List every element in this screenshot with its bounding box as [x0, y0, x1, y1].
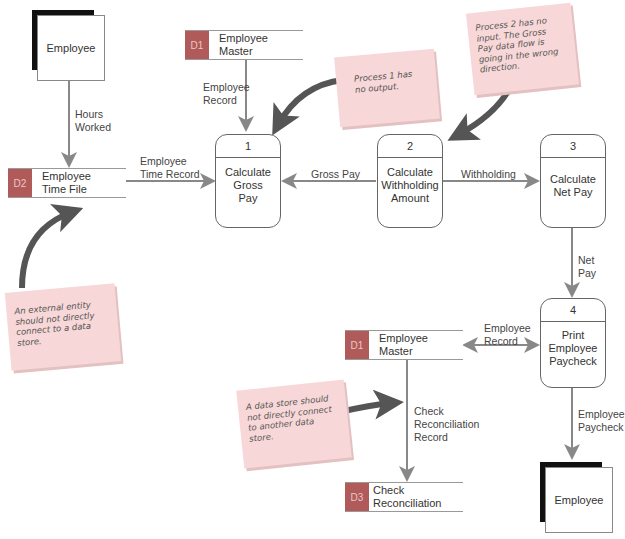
process-number: 2: [378, 135, 442, 158]
flow-label-employee-record-top: Employee Record: [203, 81, 250, 107]
flow-label-check-reconciliation-record: Check Reconciliation Record: [414, 405, 479, 444]
process-label: Print Employee Paycheck: [541, 322, 605, 368]
flow-label-net-pay: Net Pay: [578, 254, 596, 280]
store-name: Check Reconciliation: [373, 484, 441, 510]
data-store-d1-bottom: D1 Employee Master: [345, 330, 463, 360]
note-store-to-store: A data store should not directly connect…: [236, 380, 352, 469]
note-entity-to-store: An external entity should not directly c…: [5, 283, 121, 370]
flow-label-employee-record-bottom: Employee Record: [484, 322, 531, 348]
process-number: 3: [541, 135, 605, 158]
flow-label-hours-worked: Hours Worked: [75, 108, 111, 134]
store-id: D3: [345, 483, 369, 511]
flow-label-withholding: Withholding: [461, 168, 516, 181]
process-3: 3 Calculate Net Pay: [540, 134, 606, 228]
store-id: D1: [345, 331, 369, 359]
entity-label: Employee: [47, 42, 96, 54]
note-process2-no-input: Process 2 has no input. The Gross Pay da…: [466, 3, 579, 96]
store-name: Employee Master: [379, 332, 428, 358]
flow-label-employee-time-record: Employee Time Record: [140, 155, 200, 181]
store-id: D2: [8, 169, 32, 197]
external-entity-employee-top: Employee: [32, 10, 104, 80]
external-entity-employee-bottom: Employee: [540, 462, 612, 532]
data-store-d1-top: D1 Employee Master: [185, 30, 303, 60]
process-label: Calculate Withholding Amount: [378, 158, 442, 205]
flow-label-employee-paycheck: Employee Paycheck: [578, 408, 625, 434]
store-name: Employee Time File: [42, 170, 91, 196]
process-label: Calculate Net Pay: [541, 158, 605, 199]
process-2: 2 Calculate Withholding Amount: [377, 134, 443, 228]
flow-label-gross-pay: Gross Pay: [311, 168, 360, 181]
store-id: D1: [185, 31, 209, 59]
process-label: Calculate Gross Pay: [216, 158, 280, 205]
data-store-d2: D2 Employee Time File: [8, 168, 126, 198]
entity-box: Employee: [545, 467, 613, 533]
entity-box: Employee: [37, 15, 105, 81]
process-number: 4: [541, 299, 605, 322]
store-name: Employee Master: [219, 32, 268, 58]
process-number: 1: [216, 135, 280, 158]
note-process1-no-output: Process 1 has no output.: [334, 49, 440, 127]
process-4: 4 Print Employee Paycheck: [540, 298, 606, 388]
entity-label: Employee: [555, 494, 604, 506]
data-store-d3: D3 Check Reconciliation: [345, 482, 463, 512]
process-1: 1 Calculate Gross Pay: [215, 134, 281, 228]
